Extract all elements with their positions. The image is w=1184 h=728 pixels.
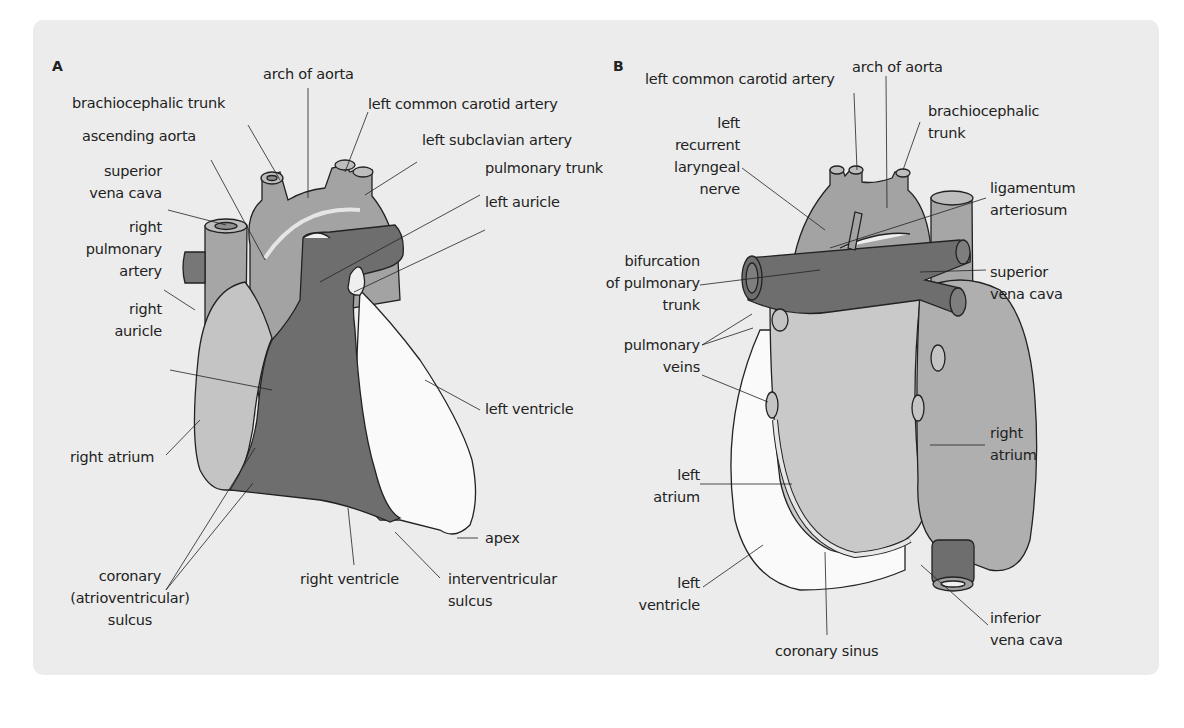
label-right-pulmonary-artery-a: right pulmonary artery [60, 216, 162, 282]
label-interventricular-sulcus-a: interventricular sulcus [448, 568, 557, 612]
label-pulmonary-veins-b: pulmonary veins [610, 334, 700, 378]
label-right-ventricle-a: right ventricle [300, 568, 399, 590]
heart-anterior-view [183, 160, 476, 534]
panel-b-letter: B [613, 58, 624, 74]
label-left-subclavian-artery-a: left subclavian artery [422, 129, 572, 151]
label-ligamentum-arteriosum-b: ligamentum arteriosum [990, 177, 1075, 221]
label-right-auricle-a: right auricle [70, 298, 162, 342]
label-left-ventricle-a: left ventricle [485, 398, 574, 420]
label-coronary-sinus-b: coronary sinus [775, 640, 878, 662]
label-left-ventricle-b: left ventricle [620, 572, 700, 616]
label-arch-of-aorta-b: arch of aorta [852, 56, 943, 78]
label-left-atrium-b: left atrium [620, 464, 700, 508]
label-coronary-sulcus-a: coronary (atrioventricular) sulcus [55, 565, 205, 631]
label-right-atrium-a: right atrium [70, 446, 154, 468]
label-pulmonary-trunk-a: pulmonary trunk [485, 157, 603, 179]
label-apex-a: apex [485, 527, 520, 549]
panel-a-letter: A [52, 58, 63, 74]
label-ascending-aorta-a: ascending aorta [82, 125, 196, 147]
left-atrium-b [770, 300, 925, 553]
label-brachiocephalic-trunk-a: brachiocephalic trunk [72, 92, 225, 114]
label-superior-vena-cava-b: superior vena cava [990, 261, 1063, 305]
label-left-common-carotid-artery-b: left common carotid artery [645, 68, 835, 90]
label-bifurcation-of-pulmonary-trunk-b: bifurcation of pulmonary trunk [590, 250, 700, 316]
label-left-common-carotid-artery-a: left common carotid artery [368, 93, 558, 115]
label-right-atrium-b: right atrium [990, 422, 1037, 466]
label-arch-of-aorta-a: arch of aorta [263, 63, 354, 85]
heart-posterior-view [731, 166, 1037, 591]
label-inferior-vena-cava-b: inferior vena cava [990, 607, 1063, 651]
label-left-recurrent-laryngeal-nerve-b: left recurrent laryngeal nerve [660, 112, 740, 200]
label-superior-vena-cava-a: superior vena cava [70, 160, 162, 204]
label-left-auricle-a: left auricle [485, 191, 560, 213]
label-brachiocephalic-trunk-b: brachiocephalic trunk [928, 100, 1039, 144]
